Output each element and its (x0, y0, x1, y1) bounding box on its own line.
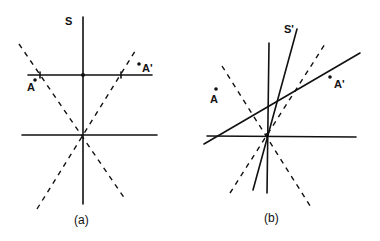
symmetry-axis-s-prime (253, 29, 297, 190)
reflection-diagram: S A A' (a) S' A A' (b) (0, 0, 380, 241)
dashed-line-ascending (230, 44, 325, 193)
axis-label-s: S (65, 15, 72, 27)
point-label-a: A (210, 93, 218, 105)
intersection-dot (265, 133, 269, 137)
vertical-line (267, 43, 269, 193)
horizontal-line (207, 136, 356, 137)
point-a (214, 87, 218, 91)
point-a-prime (328, 75, 332, 79)
panel-a: S A A' (a) (19, 15, 157, 227)
dashed-line-ascending (37, 48, 137, 209)
point-label-a-prime: A' (334, 78, 345, 90)
caption-a: (a) (74, 213, 89, 227)
point-a-prime (137, 62, 141, 66)
caption-b: (b) (264, 211, 279, 225)
point-label-a-prime: A' (142, 62, 153, 74)
slanted-line (204, 53, 360, 144)
axis-label-s-prime: S' (284, 23, 294, 35)
diagram-canvas: S A A' (a) S' A A' (b) (0, 0, 380, 241)
dashed-line-descending (19, 44, 125, 199)
panel-b: S' A A' (b) (204, 23, 360, 225)
intersection-dot (81, 73, 85, 77)
point-label-a: A (27, 81, 35, 93)
